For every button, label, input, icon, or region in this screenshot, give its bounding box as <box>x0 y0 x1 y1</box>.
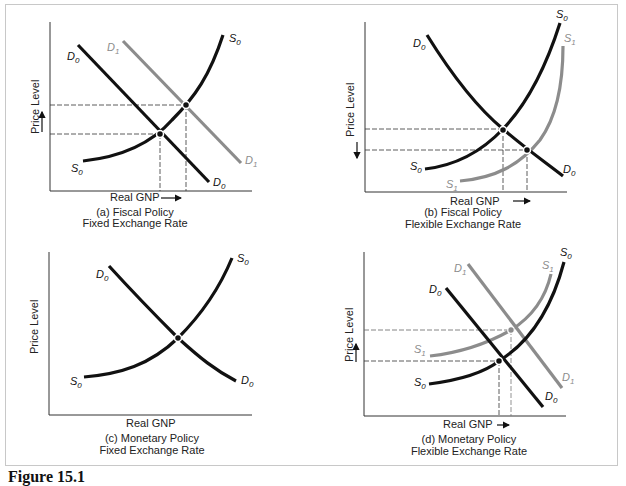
svg-text:D0: D0 <box>96 268 109 283</box>
panel-c: D0 S0 S0 D0 Price Level Real GNP (c) Mon… <box>28 252 254 456</box>
svg-text:D0: D0 <box>241 374 254 389</box>
svg-text:D1: D1 <box>562 371 574 386</box>
svg-text:D0: D0 <box>545 390 558 405</box>
svg-text:S0: S0 <box>414 376 426 391</box>
svg-text:S0: S0 <box>70 375 82 390</box>
svg-text:D1: D1 <box>107 41 119 56</box>
svg-text:Real GNP: Real GNP <box>126 417 176 429</box>
panel-b: D0 S0 S1 S0 S1 D0 Price Level Real GNP (… <box>344 8 576 230</box>
svg-text:S0: S0 <box>556 8 568 23</box>
svg-text:Price Level: Price Level <box>28 300 40 354</box>
svg-text:S1: S1 <box>446 178 458 193</box>
curve-d0 <box>109 266 236 381</box>
caption-c-line1: (c) Monetary Policy <box>105 432 200 444</box>
svg-text:S0: S0 <box>410 160 422 175</box>
svg-text:S1: S1 <box>542 259 554 274</box>
svg-text:D1: D1 <box>245 154 257 169</box>
svg-text:D0: D0 <box>413 37 426 52</box>
caption-c-line2: Fixed Exchange Rate <box>99 444 204 456</box>
curve-s0 <box>83 35 223 161</box>
svg-text:D0: D0 <box>67 50 80 65</box>
svg-text:D0: D0 <box>563 163 576 178</box>
svg-text:S0: S0 <box>237 252 249 267</box>
curve-d0 <box>446 288 543 407</box>
svg-text:D0: D0 <box>429 283 442 298</box>
svg-text:Real GNP: Real GNP <box>443 418 493 430</box>
caption-d-line1: (d) Monetary Policy <box>422 433 517 445</box>
panel-d: D1 D0 S1 S0 S1 S0 D1 D0 Price Level Real… <box>343 246 574 457</box>
curve-d0 <box>78 45 209 182</box>
y-axis-label: Price Level <box>29 80 41 134</box>
x-axis-label: Real GNP <box>110 191 160 203</box>
svg-text:S0: S0 <box>71 162 83 177</box>
svg-text:D1: D1 <box>454 262 466 277</box>
figure-caption: Figure 15.1 <box>8 468 85 486</box>
caption-b-line2: Flexible Exchange Rate <box>405 218 521 230</box>
caption-d-line2: Flexible Exchange Rate <box>411 445 527 457</box>
svg-text:Price Level: Price Level <box>343 308 355 362</box>
curve-s1 <box>460 46 563 181</box>
caption-a-line2: Fixed Exchange Rate <box>82 217 187 229</box>
svg-text:S0: S0 <box>229 32 241 47</box>
curve-d0 <box>427 35 563 176</box>
panel-a: D0 D1 S0 S0 D1 D0 Price Level Real GNP (… <box>29 22 257 229</box>
svg-text:S1: S1 <box>564 32 576 47</box>
svg-text:S0: S0 <box>560 246 572 261</box>
caption-b-line1: (b) Fiscal Policy <box>424 206 502 218</box>
curve-s0 <box>425 23 560 169</box>
svg-text:Price Level: Price Level <box>344 83 356 137</box>
svg-text:S1: S1 <box>414 343 426 358</box>
svg-text:D0: D0 <box>213 176 226 191</box>
